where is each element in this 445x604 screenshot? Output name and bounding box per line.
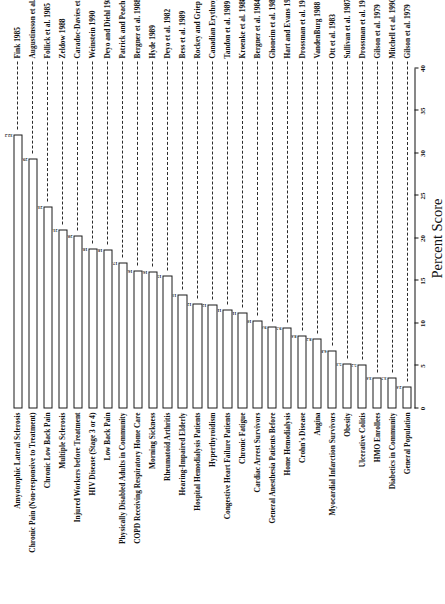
citation-label: Tandon et al. 1989 [223,0,230,58]
bar [73,235,82,408]
category-label: Cardiac Arrest Survivors [253,412,260,492]
category-label: Diabetics in Community [388,412,395,489]
citation-label: Kroenke et al. 1988 [238,0,245,58]
bar-row: Congestive Heart Failure Patients11.6Tan… [222,68,231,408]
bar [237,312,246,408]
category-label: Chronic Fatigue [238,412,245,463]
citation-label: Patrick and Peach 1989 [119,0,126,58]
x-tick [414,322,418,323]
bar-value-label: 32.2 [4,132,12,136]
citation-label: Gilson et al. 1979 [373,4,380,58]
category-label: HIV Disease (Stage 3 or 4) [89,412,96,495]
leader-line [77,61,78,230]
leader-line [211,61,212,299]
x-tick [414,67,418,68]
bar [88,248,97,408]
leader-line [346,61,347,358]
bar-row: Hearing-Impaired Elderly13.4Bess et al. … [177,68,186,408]
leader-line [122,61,123,257]
bar [252,320,261,408]
bar [357,364,366,408]
leader-line [361,61,362,359]
citation-label: Deyo and Diehl 1983 [104,0,111,58]
bar-row: Crohn's Disease8.6Drossman et al. 1989 [297,68,306,408]
category-label: COPD Receiving Respiratory Home Care [133,412,140,543]
leader-line [301,61,302,330]
bar-row: Ulcerative Colitis5.2Drossman et al. 198… [357,68,366,408]
bar-row: Angina8.2VandenBurg 1988 [312,68,321,408]
bar [28,158,37,408]
citation-label: Sullivan et al. 1987 [343,0,350,58]
leader-line [92,61,93,243]
leader-line [62,61,63,224]
bar-row: Myocardial Infarction Survivors6.8Ott et… [327,68,336,408]
x-tick-label: 30 [419,150,426,157]
x-tick-label: 15 [419,277,426,284]
category-label: Amyotrophic Lateral Sclerosis [14,412,21,508]
bar-row: Injured Workers before Treatment20.4Cara… [73,68,82,408]
x-tick-label: 40 [419,65,426,72]
x-tick-label: 5 [419,364,426,368]
bar-row: Low Back Pain18.7Deyo and Diehl 1983 [103,68,112,408]
citation-label: Gilson et al. 1979 [403,4,410,58]
x-axis-title-label: Percent Score [428,198,444,278]
leader-line [256,61,257,315]
bar [282,327,291,408]
citation-label: Mitchell et al. 1990 [388,0,395,58]
citation-label: Deyo et al. 1982 [163,8,170,58]
category-label: Hearing-Impaired Elderly [178,412,185,495]
category-label: HMO Enrollees [373,412,380,462]
x-tick-label: 10 [419,320,426,327]
leader-line [391,61,392,372]
bar [372,377,381,408]
bar [222,309,231,408]
leader-line [376,61,377,372]
bar [267,326,276,408]
bar [13,134,22,408]
citation-label: Zeldow 1988 [59,18,66,58]
x-tick-label: 0 [419,406,426,410]
leader-line [137,61,138,265]
bar [148,271,157,408]
citation-label: Ghoneim et al. 1988 [268,0,275,58]
bar [327,350,336,408]
bar [342,363,351,408]
category-label: Physically Disabled Adults in Community [119,412,126,543]
leader-line [241,61,242,307]
category-label: Hyperthyroidism [208,412,215,466]
leader-line [406,61,407,381]
citation-label: Drossman et al. 1989 [358,0,365,58]
bar-row: Rheumatoid Arthritis15.6Deyo et al. 1982 [162,68,171,408]
leader-line [32,61,33,153]
citation-label: Drossman et al. 1989 [298,0,305,58]
category-label: Chronic Pain (Non-responsive to Treatmen… [29,412,36,552]
bar-row: Chronic Fatigue11.3Kroenke et al. 1988 [237,68,246,408]
bar [43,206,52,408]
bar-row: Hospital Hemodialysis Patients12.3Rockey… [192,68,201,408]
leader-line [182,61,183,289]
bar [58,229,67,408]
x-tick-label: 20 [419,235,426,242]
citation-label: Bergner et al. 1984; 1985 [253,0,260,58]
category-label: Congestive Heart Failure Patients [223,412,230,519]
citation-label: Caradoc-Davies et al. 1990 [74,0,81,58]
x-tick [414,407,418,408]
x-tick [414,110,418,111]
category-label: Angina [313,412,320,435]
bar-row: HIV Disease (Stage 3 or 4)18.8Weinstein … [88,68,97,408]
category-label: General Anesthesia Patients Before [268,412,275,523]
category-label: Morning Sickness [148,412,155,468]
x-tick-label: 25 [419,192,426,199]
plot-area: General Population2.6Gilson et al. 1979D… [10,68,414,408]
bar-row: Hyperthyroidism12.2Canadian Erythropoiet… [207,68,216,408]
leader-line [197,61,198,298]
bar [192,303,201,408]
x-tick [414,152,418,153]
citation-label: Augustinsson et al. 1986 [29,0,36,58]
citation-label: Follick et al. 1985 [44,3,51,58]
bar-row: Cardiac Arrest Survivors10.3Bergner et a… [252,68,261,408]
citation-label: Hyde 1989 [148,25,155,58]
category-label: General Population [403,412,410,474]
bar-row: Chronic Low Back Pain23.8Follick et al. … [43,68,52,408]
